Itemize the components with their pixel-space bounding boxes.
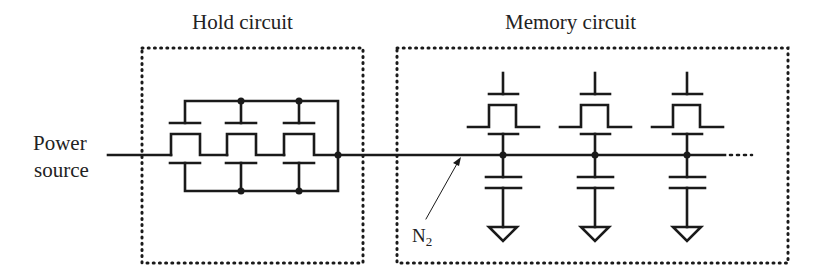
node-n2-label: N2 [412,226,432,248]
n2-pointer-line [426,162,458,219]
arrow-head-icon [453,157,461,166]
node-n2-main: N [412,225,426,246]
circuit-diagram [0,0,819,279]
power-source-label-line2: source [34,160,89,181]
memory-circuit-title: Memory circuit [505,12,636,33]
hold-transistor-3 [284,123,338,163]
junction-dots [238,98,691,195]
node-n2-subscript: 2 [426,234,433,249]
power-source-label-line1: Power [33,133,87,154]
hold-circuit-title: Hold circuit [192,12,293,33]
hold-transistor-2 [226,123,284,163]
hold-transistor-1 [170,123,227,163]
